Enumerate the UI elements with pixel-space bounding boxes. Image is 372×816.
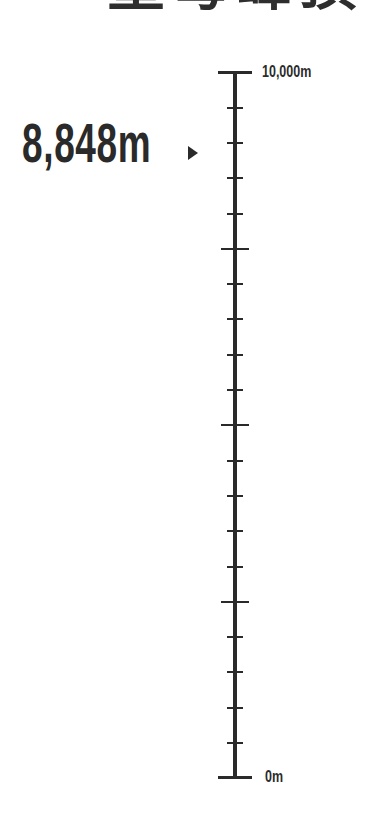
scale-major-tick bbox=[221, 248, 249, 250]
scale-minor-tick bbox=[227, 213, 243, 215]
scale-minor-tick bbox=[227, 566, 243, 568]
scale-cap-bottom bbox=[218, 776, 252, 779]
scale-cap-top bbox=[218, 71, 252, 74]
scale-min-label: 0m bbox=[265, 768, 283, 786]
scale-minor-tick bbox=[227, 742, 243, 744]
scale-minor-tick bbox=[227, 142, 243, 144]
elevation-value: 8,848m bbox=[22, 113, 151, 173]
scale-major-tick bbox=[221, 601, 249, 603]
scale-minor-tick bbox=[227, 636, 243, 638]
scale-major-tick bbox=[221, 424, 249, 426]
scale-minor-tick bbox=[227, 671, 243, 673]
scale-minor-tick bbox=[227, 460, 243, 462]
scale-minor-tick bbox=[227, 389, 243, 391]
scale-minor-tick bbox=[227, 495, 243, 497]
scale-minor-tick bbox=[227, 283, 243, 285]
scale-minor-tick bbox=[227, 530, 243, 532]
scale-minor-tick bbox=[227, 318, 243, 320]
triangle-right-icon bbox=[188, 146, 198, 160]
scale-max-label: 10,000m bbox=[262, 63, 311, 81]
scale-minor-tick bbox=[227, 177, 243, 179]
scale-minor-tick bbox=[227, 707, 243, 709]
page-title: 聖母峰頂 bbox=[108, 0, 368, 12]
scale-minor-tick bbox=[227, 107, 243, 109]
scale-minor-tick bbox=[227, 354, 243, 356]
